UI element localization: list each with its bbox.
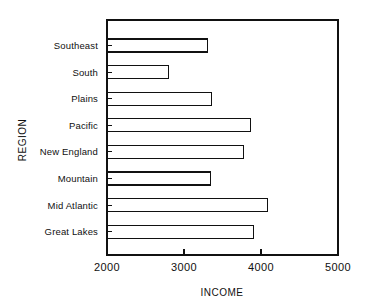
x-tick-label: 3000 [171,261,197,273]
category-label: South [72,67,98,78]
category-label: Plains [71,93,98,104]
category-label: Great Lakes [45,226,98,237]
bar-pacific [107,119,250,132]
category-label: Southeast [54,40,98,51]
x-tick-label: 5000 [325,261,351,273]
x-tick-labels-group: 2000300040005000 [94,261,351,273]
bar-south [107,66,169,79]
bar-great-lakes [107,225,253,238]
x-tick-label: 4000 [248,261,274,273]
plot-area-frame [107,20,338,255]
category-label: Pacific [69,120,98,131]
chart-canvas: SoutheastSouthPlainsPacificNew EnglandMo… [0,0,372,307]
x-tick-label: 2000 [94,261,120,273]
bars-group [107,39,267,238]
bar-southeast [107,39,207,52]
category-label: New England [40,146,98,157]
bar-plains [107,92,212,105]
category-label: Mid Atlantic [48,200,98,211]
category-label: Mountain [58,173,98,184]
bar-mountain [107,172,210,185]
y-axis-title: REGION [17,119,28,161]
bar-new-england [107,145,243,158]
bar-chart-figure: SoutheastSouthPlainsPacificNew EnglandMo… [0,0,372,307]
bar-mid-atlantic [107,199,267,212]
x-axis-title: INCOME [201,287,244,298]
category-labels-group: SoutheastSouthPlainsPacificNew EnglandMo… [40,40,98,237]
